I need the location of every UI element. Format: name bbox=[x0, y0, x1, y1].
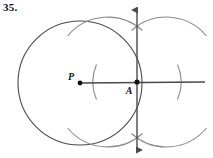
arc-upper-right-icon bbox=[132, 17, 207, 36]
point-p-label: P bbox=[68, 71, 75, 82]
point-a-label: A bbox=[125, 85, 133, 96]
horizontal-line bbox=[80, 82, 205, 83]
point-a-dot bbox=[134, 79, 139, 84]
arc-lower-right-icon bbox=[132, 128, 207, 147]
point-p-dot bbox=[78, 81, 83, 86]
arc-lower-left-icon bbox=[68, 128, 143, 147]
construction-diagram-svg: P A bbox=[0, 0, 213, 158]
geometry-figure: 35. P A bbox=[0, 0, 213, 158]
arc-left-of-a-icon bbox=[93, 65, 97, 100]
